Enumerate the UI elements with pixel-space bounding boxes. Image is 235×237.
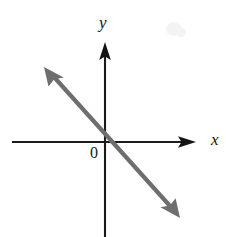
y-axis-label: y bbox=[99, 14, 107, 31]
origin-label: 0 bbox=[90, 145, 98, 161]
coordinate-plane-figure: y x 0 bbox=[0, 0, 235, 237]
graph-canvas bbox=[0, 0, 235, 237]
x-axis-label: x bbox=[211, 131, 219, 148]
